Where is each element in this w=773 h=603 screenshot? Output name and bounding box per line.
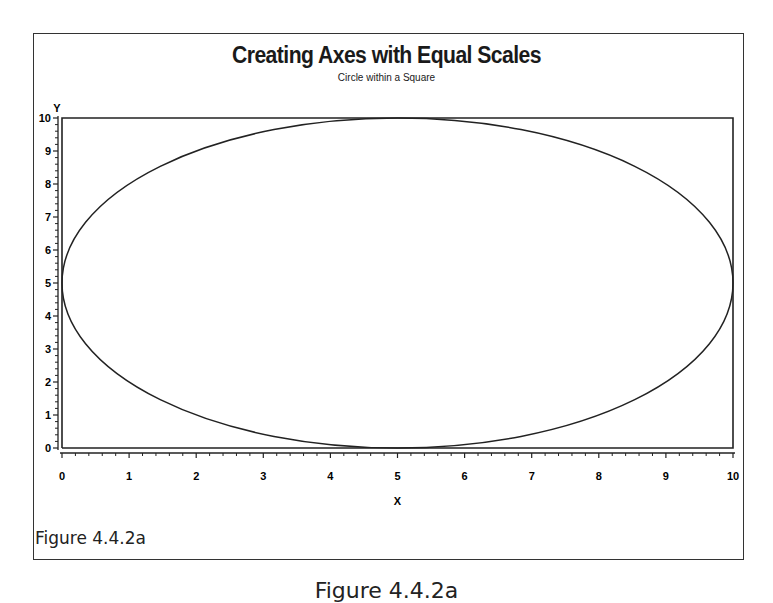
x-tick-label: 10 bbox=[727, 470, 739, 482]
x-tick-label: 7 bbox=[529, 470, 535, 482]
y-axis-label: Y bbox=[53, 102, 61, 114]
circle-series bbox=[62, 118, 733, 448]
y-tick-label: 5 bbox=[45, 277, 51, 289]
x-axis-label: X bbox=[394, 495, 402, 507]
y-tick-label: 2 bbox=[45, 376, 51, 388]
x-tick-label: 5 bbox=[394, 470, 400, 482]
x-tick-label: 3 bbox=[260, 470, 266, 482]
figure-caption: Figure 4.4.2a bbox=[0, 578, 773, 603]
y-tick-label: 8 bbox=[45, 178, 51, 190]
y-tick-label: 7 bbox=[45, 211, 51, 223]
x-tick-label: 1 bbox=[126, 470, 132, 482]
x-tick-label: 4 bbox=[327, 470, 334, 482]
x-tick-label: 0 bbox=[59, 470, 65, 482]
square-series bbox=[62, 118, 733, 448]
x-tick-label: 2 bbox=[193, 470, 199, 482]
y-tick-label: 4 bbox=[45, 310, 52, 322]
y-tick-label: 9 bbox=[45, 145, 51, 157]
y-tick-label: 3 bbox=[45, 343, 51, 355]
figure-inner-label: Figure 4.4.2a bbox=[35, 528, 146, 548]
y-tick-label: 10 bbox=[39, 112, 51, 124]
x-tick-label: 6 bbox=[462, 470, 468, 482]
x-tick-label: 9 bbox=[663, 470, 669, 482]
y-tick-label: 1 bbox=[45, 409, 51, 421]
y-tick-label: 6 bbox=[45, 244, 51, 256]
y-tick-label: 0 bbox=[45, 442, 51, 454]
x-tick-label: 8 bbox=[596, 470, 602, 482]
